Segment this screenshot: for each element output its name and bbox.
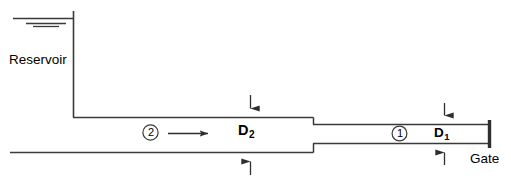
d2-diameter-label: D2	[238, 123, 255, 138]
diagram-canvas	[0, 0, 511, 180]
station-2-number: 2	[143, 127, 159, 138]
d2-subscript: 2	[249, 129, 255, 140]
d2-symbol: D	[238, 122, 249, 138]
d1-diameter-label: D1	[434, 126, 449, 140]
d1-subscript: 1	[444, 131, 449, 142]
gate-label: Gate	[470, 152, 499, 166]
d1-symbol: D	[434, 125, 444, 140]
water-surface-symbol	[13, 19, 73, 27]
station-1-number: 1	[392, 128, 408, 139]
reservoir-pipe-gate-diagram: Reservoir Gate D2 D1 2 1	[0, 0, 511, 180]
reservoir-label: Reservoir	[9, 53, 67, 67]
